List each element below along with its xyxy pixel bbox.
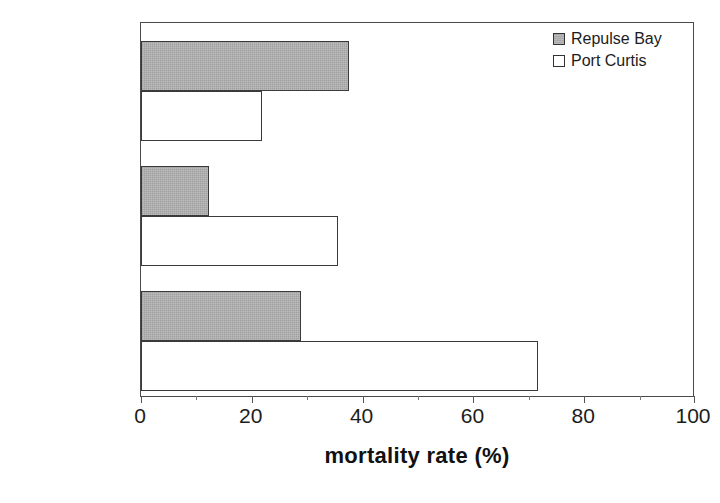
xtick-major-40	[363, 396, 364, 403]
xtick-label-40: 40	[327, 404, 397, 428]
bar-ceriops-repulse-bay	[141, 166, 209, 216]
x-axis-title: mortality rate (%)	[140, 443, 694, 469]
xtick-minor-50	[418, 396, 419, 400]
xtick-label-60: 60	[437, 404, 507, 428]
legend-entry-port-curtis: Port Curtis	[553, 53, 662, 69]
legend-label-repulse-bay: Repulse Bay	[571, 31, 662, 47]
xtick-label-0: 0	[105, 404, 175, 428]
legend-entry-repulse-bay: Repulse Bay	[553, 31, 662, 47]
plot-area	[140, 22, 694, 397]
xtick-label-80: 80	[548, 404, 618, 428]
chart-legend: Repulse Bay Port Curtis	[553, 31, 662, 69]
bar-ceriops-port-curtis	[141, 216, 338, 266]
bar-chart: Avicennia Ceriops Rhizophora 0 20 40 60 …	[0, 0, 720, 503]
xtick-major-80	[584, 396, 585, 403]
xtick-major-100	[694, 396, 695, 403]
xtick-major-20	[252, 396, 253, 403]
bar-rhizophora-repulse-bay	[141, 291, 301, 341]
bar-rhizophora-port-curtis	[141, 341, 538, 391]
xtick-minor-30	[307, 396, 308, 400]
legend-label-port-curtis: Port Curtis	[571, 53, 647, 69]
bar-avicennia-port-curtis	[141, 91, 262, 141]
xtick-minor-10	[196, 396, 197, 400]
legend-swatch-filled-icon	[553, 33, 565, 45]
xtick-major-0	[141, 396, 142, 403]
legend-swatch-hollow-icon	[553, 55, 565, 67]
xtick-label-100: 100	[658, 404, 720, 428]
xtick-minor-70	[529, 396, 530, 400]
xtick-major-60	[473, 396, 474, 403]
xtick-minor-90	[640, 396, 641, 400]
bar-avicennia-repulse-bay	[141, 41, 349, 91]
xtick-label-20: 20	[216, 404, 286, 428]
